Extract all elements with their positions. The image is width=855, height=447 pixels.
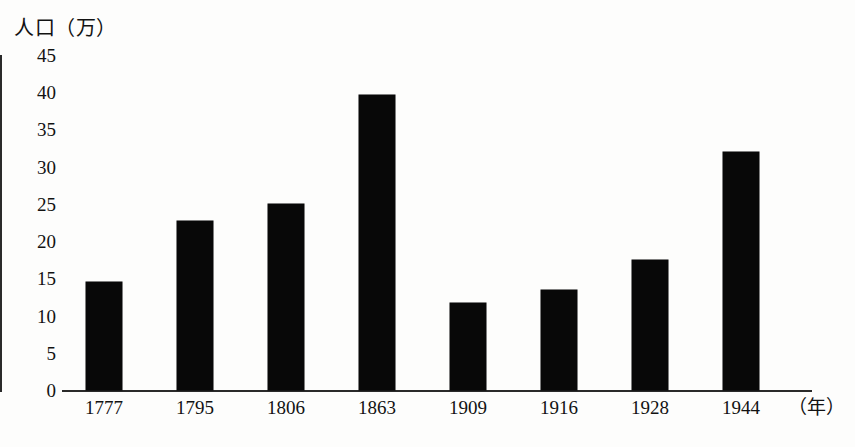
bar (86, 282, 122, 390)
y-tick-label: 40 (22, 83, 56, 102)
y-tick-label: 45 (22, 46, 56, 65)
y-tick-label: 0 (22, 381, 56, 400)
x-tick-label: 1795 (155, 396, 235, 420)
x-axis-tick-labels: 17771795180618631909191619281944 (62, 396, 812, 430)
x-tick-label: 1944 (701, 396, 781, 420)
y-tick-label: 5 (22, 344, 56, 363)
bar (632, 260, 668, 390)
bar (723, 152, 759, 390)
bar (450, 303, 486, 390)
x-axis-line (62, 390, 812, 392)
x-axis-unit-label: （年） (788, 396, 845, 420)
y-tick-label: 30 (22, 158, 56, 177)
y-axis-line (0, 55, 2, 392)
x-tick-label: 1916 (519, 396, 599, 420)
x-tick-label: 1777 (64, 396, 144, 420)
bars-layer (62, 55, 812, 390)
bar (541, 290, 577, 390)
y-tick-label: 35 (22, 120, 56, 139)
y-axis-tick-labels: 454035302520151050 (16, 0, 56, 447)
population-bar-chart: 人口（万） 454035302520151050 177717951806186… (0, 0, 855, 447)
y-tick-label: 20 (22, 232, 56, 251)
x-tick-label: 1909 (428, 396, 508, 420)
bar (268, 204, 304, 390)
bar (177, 221, 213, 390)
y-tick-label: 15 (22, 269, 56, 288)
x-tick-label: 1928 (610, 396, 690, 420)
y-tick-label: 25 (22, 195, 56, 214)
y-tick-label: 10 (22, 307, 56, 326)
bar (359, 95, 395, 390)
x-tick-label: 1806 (246, 396, 326, 420)
x-tick-label: 1863 (337, 396, 417, 420)
